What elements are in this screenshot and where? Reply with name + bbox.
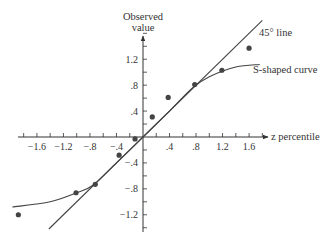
y-axis-title: Observed (123, 11, 164, 22)
data-point (132, 136, 137, 141)
x-tick-label: −1.2 (54, 141, 72, 152)
y-tick-label: .4 (131, 106, 139, 117)
data-point (150, 114, 155, 119)
data-point (166, 95, 171, 100)
data-point (16, 212, 21, 217)
y-tick-label: −1.2 (120, 209, 138, 220)
data-point (93, 182, 98, 187)
y-tick-label: .8 (131, 80, 139, 91)
curve-annotation: S-shaped curve (253, 64, 318, 75)
x-axis-title: z percentile (271, 131, 320, 142)
x-tick-label: −1.6 (28, 141, 46, 152)
x-tick-label: −.8 (83, 141, 96, 152)
x-tick-label: 1.2 (216, 141, 229, 152)
x-tick-label: .8 (192, 141, 200, 152)
data-point (246, 46, 251, 51)
y-tick-label: 1.2 (126, 54, 139, 65)
y-tick-label: −.4 (125, 157, 138, 168)
data-point (219, 68, 224, 73)
qq-plot-chart: −1.6−1.2−.8−.4.4.81.21.6 1.2.8.4−.4−.8−1… (0, 0, 336, 238)
line-annotation: 45° line (259, 27, 292, 38)
data-point (117, 153, 122, 158)
x-tick-label: .4 (166, 141, 174, 152)
data-point (73, 190, 78, 195)
x-tick-label: 1.6 (243, 141, 256, 152)
y-axis-title-line2: value (132, 22, 155, 33)
data-point (192, 82, 197, 87)
x-tick-label: −.4 (110, 141, 123, 152)
y-tick-label: −.8 (125, 183, 138, 194)
